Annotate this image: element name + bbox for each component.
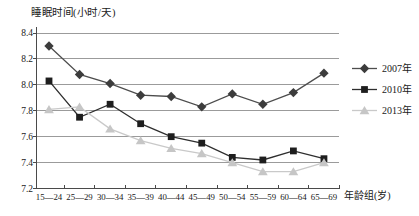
square-marker	[168, 133, 175, 140]
x-tick-label: 45—49	[189, 192, 216, 202]
triangle-marker-icon	[351, 104, 378, 117]
series-2013年	[44, 102, 329, 175]
x-tick-label: 60—64	[280, 192, 307, 202]
diamond-marker	[228, 89, 237, 98]
x-tick-label: 30—34	[97, 192, 124, 202]
diamond-marker	[319, 68, 328, 77]
x-tick-label: 50—54	[219, 192, 246, 202]
sleep-time-chart-figure: 睡眠时间(小时/天) 8.48.28.07.87.67.47.215—2425—…	[0, 0, 419, 216]
square-marker	[361, 86, 368, 93]
legend-item-2010: 2010年	[351, 83, 412, 96]
square-marker	[46, 78, 53, 85]
diamond-marker	[197, 102, 206, 111]
x-tick-label: 25—29	[66, 192, 93, 202]
x-axis-title: 年龄组(岁)	[344, 190, 391, 202]
legend: 2007年 2010年 2013年	[351, 62, 412, 125]
x-tick-label: 55—59	[250, 192, 277, 202]
x-tick-label: 35—39	[127, 192, 154, 202]
series-line	[49, 46, 324, 107]
square-marker	[107, 101, 114, 108]
series-line	[49, 81, 324, 160]
x-tick-label: 15—24	[36, 192, 63, 202]
square-marker	[137, 120, 144, 127]
y-tick-label: 8.4	[21, 28, 33, 38]
legend-label: 2013年	[382, 104, 412, 117]
y-tick-label: 7.2	[21, 184, 33, 194]
diamond-marker	[105, 79, 114, 88]
legend-item-2013: 2013年	[351, 104, 412, 117]
diamond-marker	[167, 92, 176, 101]
x-tick-label: 40—44	[158, 192, 185, 202]
y-tick-label: 8.2	[21, 54, 33, 64]
diamond-marker	[258, 100, 267, 109]
square-marker	[198, 140, 205, 147]
y-tick-label: 7.8	[21, 106, 33, 116]
y-tick-label: 7.4	[21, 158, 33, 168]
series-2007年	[44, 41, 328, 111]
y-tick-label: 8.0	[21, 80, 33, 90]
legend-label: 2010年	[382, 83, 412, 96]
x-tick-label: 65—69	[311, 192, 338, 202]
diamond-marker	[360, 64, 369, 73]
diamond-marker	[136, 91, 145, 100]
square-marker	[259, 157, 266, 164]
diamond-marker	[289, 88, 298, 97]
square-marker-icon	[351, 83, 378, 96]
legend-label: 2007年	[382, 62, 412, 75]
y-tick-label: 7.6	[21, 132, 33, 142]
diamond-marker-icon	[351, 62, 378, 75]
triangle-marker	[136, 136, 146, 144]
legend-item-2007: 2007年	[351, 62, 412, 75]
square-marker	[290, 148, 297, 155]
square-marker	[76, 114, 83, 121]
